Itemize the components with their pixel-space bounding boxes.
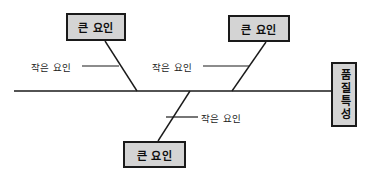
branch-line-major-3 <box>158 91 190 141</box>
fishbone-diagram: 큰 요인 큰 요인 큰 요인 품질특성 작은 요인 작은 요인 작은 요인 <box>0 0 374 178</box>
effect-label: 품질특성 <box>339 69 350 121</box>
major-factor-box-1[interactable]: 큰 요인 <box>66 13 126 41</box>
major-factor-label-3: 큰 요인 <box>137 147 173 163</box>
major-factor-box-2[interactable]: 큰 요인 <box>228 15 290 42</box>
minor-factor-label-2: 작은 요인 <box>152 60 193 74</box>
major-factor-label-2: 큰 요인 <box>241 21 277 37</box>
major-factor-label-1: 큰 요인 <box>78 19 114 35</box>
effect-box-quality-characteristic[interactable]: 품질특성 <box>331 62 357 127</box>
minor-factor-label-1: 작은 요인 <box>31 60 72 74</box>
major-factor-box-3[interactable]: 큰 요인 <box>123 141 186 168</box>
minor-factor-label-3: 작은 요인 <box>201 111 242 125</box>
fishbone-lines-layer <box>0 0 374 178</box>
